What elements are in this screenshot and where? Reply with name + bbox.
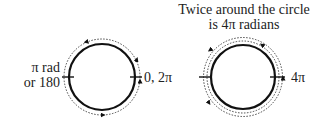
left-circle-diagram	[62, 39, 142, 115]
title-line2: is 4π radians	[174, 17, 314, 32]
label-pi-line2: or 180	[16, 75, 60, 90]
arrow-icon	[210, 48, 213, 50]
label-zero-2pi: 0, 2π	[144, 70, 172, 85]
label-pi-line1: π rad	[16, 60, 60, 75]
label-pi-rad: π rad or 180	[16, 60, 60, 90]
unit-circle	[69, 44, 135, 110]
unit-circle	[211, 45, 275, 109]
label-4pi: 4π	[291, 70, 305, 85]
right-circle-diagram	[199, 38, 285, 117]
arrow-icon	[207, 100, 209, 103]
rotation-path	[64, 39, 140, 115]
title-line1: Twice around the circle	[174, 2, 314, 17]
right-title: Twice around the circle is 4π radians	[174, 2, 314, 32]
rotation-path-1	[207, 41, 279, 113]
